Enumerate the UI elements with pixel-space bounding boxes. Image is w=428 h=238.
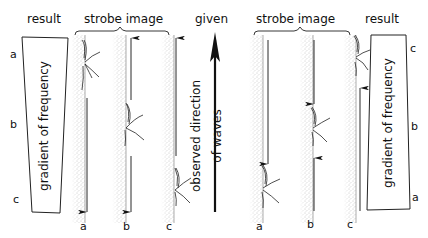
right-strip-c: [343, 35, 356, 223]
left-strip-label-a: a: [80, 220, 87, 233]
left-strobe-brace: [75, 27, 169, 35]
right-strobe-brace: [254, 27, 350, 35]
right-strobe-title: strobe image: [256, 12, 335, 26]
right-strip-a: [249, 35, 263, 223]
left-result-box-label: gradient of frequency: [37, 46, 53, 206]
left-side-label-a: a: [10, 48, 17, 61]
left-result-title: result: [27, 12, 61, 26]
right-side-label-a: a: [412, 191, 419, 204]
left-strip-a: [71, 35, 85, 223]
right-side-label-c: c: [410, 42, 416, 55]
left-side-label-b: b: [10, 118, 17, 131]
right-strip-b: [299, 35, 313, 223]
right-result-title: result: [365, 12, 399, 26]
left-side-label-c: c: [13, 193, 19, 206]
left-strip-c: [161, 35, 174, 223]
given-title: given: [195, 12, 228, 26]
right-cilia-tuft-b: [311, 107, 330, 146]
left-strip-label-b: b: [123, 220, 130, 233]
given-arrow-label-line1: observed direction: [189, 71, 205, 201]
left-cilia-tuft-b: [125, 103, 144, 146]
right-cilia-tuft-c: [354, 35, 370, 76]
right-strip-label-c: c: [347, 218, 353, 231]
right-result-box-label: gradient of frequency: [381, 43, 397, 203]
left-strip-b: [112, 35, 126, 223]
left-strip-label-c: c: [166, 220, 172, 233]
right-side-label-b: b: [411, 120, 418, 133]
right-cilia-tuft-a: [262, 165, 280, 208]
right-strip-label-a: a: [256, 220, 263, 233]
left-strobe-title: strobe image: [84, 12, 163, 26]
right-strip-label-b: b: [307, 218, 314, 231]
given-arrow-label-line2: of waves: [210, 96, 226, 176]
